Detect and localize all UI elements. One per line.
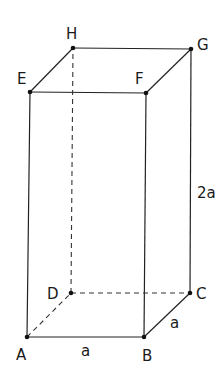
vertex-d-point bbox=[69, 291, 74, 296]
vertex-a-point bbox=[25, 335, 30, 340]
vertex-g-point bbox=[189, 47, 194, 52]
vertex-e-point bbox=[28, 90, 33, 95]
dimension-label-height: 2a bbox=[197, 184, 216, 202]
vertex-label-b: B bbox=[142, 347, 152, 365]
hidden-edge-dh bbox=[71, 48, 73, 293]
vertex-label-c: C bbox=[196, 285, 206, 303]
vertex-label-a: A bbox=[16, 346, 27, 364]
edge-bc bbox=[144, 293, 190, 337]
dimension-label-bc: a bbox=[170, 314, 179, 332]
prism-svg: H G E F D C A B a a 2a bbox=[0, 0, 223, 377]
vertex-label-e: E bbox=[17, 70, 26, 88]
vertex-f-point bbox=[144, 91, 149, 96]
edge-fg bbox=[146, 49, 191, 93]
edge-ef bbox=[30, 92, 146, 93]
vertex-c-point bbox=[188, 291, 193, 296]
edge-cg bbox=[190, 49, 191, 293]
edge-he bbox=[30, 48, 73, 92]
edge-gh bbox=[73, 48, 191, 49]
vertex-label-f: F bbox=[135, 70, 144, 88]
dimension-label-ab: a bbox=[81, 342, 90, 360]
vertex-label-d: D bbox=[47, 285, 59, 303]
vertex-h-point bbox=[71, 46, 76, 51]
vertex-label-g: G bbox=[197, 36, 209, 54]
prism-diagram: H G E F D C A B a a 2a bbox=[0, 0, 223, 377]
vertex-b-point bbox=[142, 335, 147, 340]
edge-ae bbox=[27, 92, 30, 337]
edge-bf bbox=[144, 93, 146, 337]
vertex-label-h: H bbox=[66, 25, 77, 43]
